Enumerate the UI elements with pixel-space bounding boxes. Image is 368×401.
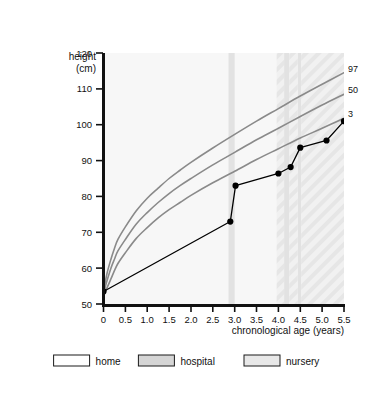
legend-swatch-hospital: [138, 355, 174, 366]
x-tick-label: 5.5: [337, 314, 350, 325]
legend-swatch-home: [54, 355, 90, 366]
y-tick-label: 70: [81, 227, 92, 238]
x-tick-label: 3.5: [250, 314, 263, 325]
percentile-label-3: 3: [348, 109, 353, 119]
data-point-marker: [275, 170, 281, 176]
band-hospital: [298, 53, 301, 304]
data-point-marker: [297, 145, 303, 151]
growth-chart-svg: 97503 5060708090100110120 00.51.01.52.02…: [0, 0, 368, 401]
percentile-label-97: 97: [348, 64, 358, 74]
y-axis-title-line1: height: [69, 51, 96, 62]
y-tick-label: 80: [81, 191, 92, 202]
band-hospital: [284, 53, 289, 304]
legend-label-nursery: nursery: [286, 356, 319, 367]
x-tick-label: 1.0: [141, 314, 154, 325]
y-tick-label: 50: [81, 299, 92, 310]
x-tick-label: 4.0: [272, 314, 285, 325]
legend-item-home: home: [54, 355, 121, 367]
y-tick-label: 100: [76, 119, 92, 130]
x-tick-label: 5.0: [315, 314, 328, 325]
x-axis-title: chronological age (years): [232, 325, 344, 336]
data-point-marker: [323, 137, 329, 143]
band-nursery: [301, 53, 344, 304]
y-tick-label: 60: [81, 263, 92, 274]
y-axis-title-line2: (cm): [76, 63, 96, 74]
x-tick-label: 0.5: [119, 314, 132, 325]
legend-label-home: home: [96, 356, 121, 367]
band-hospital: [229, 53, 235, 304]
x-tick-label: 2.5: [206, 314, 219, 325]
x-tick-label: 3.0: [228, 314, 241, 325]
growth-chart-figure: 97503 5060708090100110120 00.51.01.52.02…: [0, 0, 368, 401]
band-nursery: [289, 53, 297, 304]
x-tick-label: 0: [101, 314, 106, 325]
x-tick-label: 2.0: [184, 314, 197, 325]
legend-label-hospital: hospital: [180, 356, 214, 367]
data-point-marker: [227, 218, 233, 224]
x-tick-label: 1.5: [162, 314, 175, 325]
y-tick-label: 90: [81, 155, 92, 166]
x-tick-label: 4.5: [294, 314, 307, 325]
data-point-marker: [232, 183, 238, 189]
percentile-label-50: 50: [348, 85, 358, 95]
data-point-marker: [288, 164, 294, 170]
legend-swatch-nursery: [244, 355, 280, 366]
band-nursery: [277, 53, 284, 304]
y-tick-label: 110: [77, 83, 92, 94]
